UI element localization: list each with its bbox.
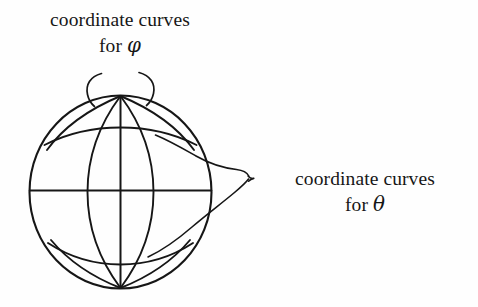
meridian-inner-right bbox=[121, 96, 154, 288]
phi-symbol: φ bbox=[127, 34, 141, 57]
label-theta-prefix: for bbox=[345, 194, 373, 215]
label-phi-line2: for φ bbox=[6, 33, 234, 59]
figure-page: coordinate curves for φ coordinate curve… bbox=[0, 0, 478, 307]
label-theta-line2: for θ bbox=[262, 192, 468, 218]
label-phi-line1: coordinate curves bbox=[6, 7, 234, 33]
label-theta-line1: coordinate curves bbox=[262, 166, 468, 192]
label-coordinate-curves-theta: coordinate curves for θ bbox=[262, 166, 468, 218]
label-phi-prefix: for bbox=[99, 35, 127, 56]
meridian-inner-left bbox=[88, 96, 121, 288]
label-coordinate-curves-phi: coordinate curves for φ bbox=[6, 7, 234, 59]
theta-leader-upper bbox=[156, 135, 249, 176]
theta-symbol: θ bbox=[373, 193, 385, 216]
